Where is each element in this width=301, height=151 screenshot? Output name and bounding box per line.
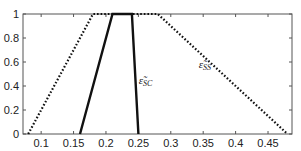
y-tick-label: 0.2 (4, 104, 19, 116)
fuzzy-membership-chart: 00.20.40.60.81 0.10.150.20.250.30.350.40… (0, 0, 301, 151)
y-tick-label: 0.4 (4, 80, 19, 92)
x-tick-label: 0.2 (98, 137, 113, 149)
y-tick-label: 1 (13, 8, 19, 20)
x-tick-label: 0.4 (228, 137, 243, 149)
x-tick-label: 0.45 (257, 137, 278, 149)
x-tick-label: 0.25 (128, 137, 149, 149)
x-tick-label: 0.3 (163, 137, 178, 149)
y-tick-label: 0.8 (4, 32, 19, 44)
plot-area (23, 14, 292, 134)
x-tick-label: 0.35 (192, 137, 213, 149)
x-tick-label: 0.1 (34, 137, 49, 149)
x-tick-label: 0.15 (63, 137, 84, 149)
y-tick-label: 0 (13, 128, 19, 140)
y-tick-label: 0.6 (4, 56, 19, 68)
